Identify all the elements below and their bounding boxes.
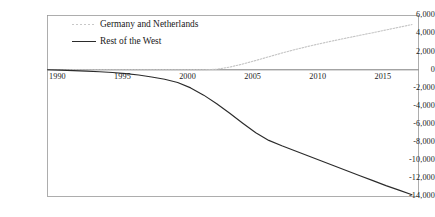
- legend-label-germany-and-netherlands: Germany and Netherlands: [100, 17, 198, 31]
- legend-label-rest-of-the-west: Rest of the West: [100, 34, 161, 48]
- legend-swatch-solid-icon: [72, 41, 96, 42]
- chart-legend: Germany and Netherlands Rest of the West: [0, 0, 435, 217]
- chart-figure: 6,0004,0002,0000-2,000-4,000-6,000-8,000…: [0, 0, 435, 217]
- legend-swatch-dotted-icon: [72, 24, 96, 25]
